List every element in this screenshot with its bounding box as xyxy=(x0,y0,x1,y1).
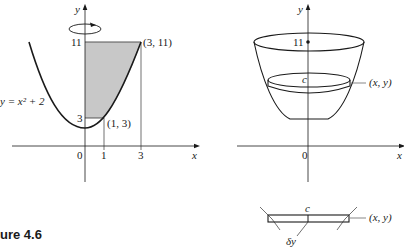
left-x-tick-3: 3 xyxy=(138,150,144,161)
point-label-1-3: (1, 3) xyxy=(107,118,131,129)
figure-canvas xyxy=(0,0,404,250)
right-point-label: (x, y) xyxy=(369,77,392,88)
right-level-11: 11 xyxy=(293,37,304,48)
right-figure xyxy=(237,7,402,182)
right-x-axis-label: x xyxy=(397,150,402,161)
right-origin-label: 0 xyxy=(302,150,308,161)
point-label-3-11: (3, 11) xyxy=(143,37,172,48)
right-center-label: c xyxy=(302,74,307,85)
left-y-tick-3: 3 xyxy=(77,113,83,124)
left-y-tick-11: 11 xyxy=(71,37,82,48)
disc-point-label: (x, y) xyxy=(369,212,392,223)
shaded-region xyxy=(85,42,141,118)
left-x-tick-1: 1 xyxy=(101,150,107,161)
slice-ellipse xyxy=(268,73,350,87)
left-x-axis-label: x xyxy=(192,150,197,161)
disc-thickness-label: δy xyxy=(286,236,296,247)
left-y-axis-label: y xyxy=(75,4,80,15)
left-x-tick-0: 0 xyxy=(77,150,83,161)
curve-equation-label: y = x² + 2 xyxy=(0,96,44,107)
disc-center-label: c xyxy=(305,203,310,214)
disc-detail xyxy=(260,207,366,236)
right-y-axis-label: y xyxy=(298,4,303,15)
figure-caption: ure 4.6 xyxy=(0,228,42,241)
